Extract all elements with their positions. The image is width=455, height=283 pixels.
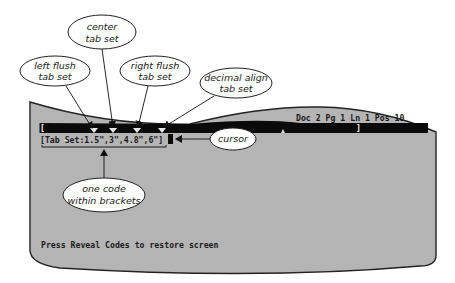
status-line: Doc 2 Pg 1 Ln 1 Pos 10 bbox=[296, 113, 405, 123]
svg-text:tab set: tab set bbox=[138, 71, 172, 82]
prompt-line: Press Reveal Codes to restore screen bbox=[41, 240, 219, 250]
svg-text:right flush: right flush bbox=[131, 60, 179, 71]
svg-text:center: center bbox=[87, 21, 119, 32]
svg-text:tab set: tab set bbox=[38, 71, 72, 82]
tab-set-code: [Tab Set:1.5",3",4.8",6"] bbox=[40, 135, 163, 145]
svg-text:within brackets: within brackets bbox=[68, 195, 141, 206]
svg-text:left flush: left flush bbox=[34, 60, 76, 71]
cursor-block bbox=[168, 134, 173, 144]
ruler-right-bracket: ] bbox=[356, 123, 361, 133]
reveal-codes-diagram: Doc 2 Pg 1 Ln 1 Pos 10 [ ] [Tab Set:1.5"… bbox=[0, 0, 455, 283]
svg-text:tab set: tab set bbox=[219, 83, 253, 94]
svg-text:one code: one code bbox=[82, 183, 126, 194]
svg-text:tab set: tab set bbox=[85, 33, 119, 44]
svg-text:decimal align: decimal align bbox=[204, 72, 268, 83]
ruler-left-bracket: [ bbox=[40, 123, 45, 133]
svg-text:cursor: cursor bbox=[218, 133, 249, 144]
callout-right-flush: right flush tab set bbox=[120, 56, 190, 127]
